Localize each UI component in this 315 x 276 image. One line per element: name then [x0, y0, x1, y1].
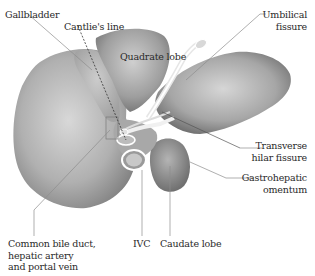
label-transverse-line1: Transverse [252, 140, 307, 152]
label-quadrate-lobe: Quadrate lobe [120, 51, 186, 63]
liver-illustration [0, 0, 315, 276]
ivc-lumen [126, 154, 142, 167]
label-gastrohepatic-line1: Gastrohepatic [242, 172, 307, 184]
label-ivc: IVC [133, 238, 150, 250]
label-common-bile-duct: Common bile duct, hepatic artery and por… [8, 238, 96, 273]
label-common-bile-line3: and portal vein [8, 261, 96, 273]
label-gastrohepatic-line2: omentum [242, 184, 307, 196]
label-caudate-lobe: Caudate lobe [160, 238, 221, 250]
label-transverse-hilar-fissure: Transverse hilar fissure [252, 140, 307, 163]
label-common-bile-line1: Common bile duct, [8, 238, 96, 250]
label-cantlies-line: Cantlie's line [64, 21, 124, 33]
label-common-bile-line2: hepatic artery [8, 250, 96, 262]
label-gallbladder: Gallbladder [5, 9, 59, 21]
label-umbilical-line2: fissure [263, 21, 307, 33]
bile-duct-vessel [120, 129, 128, 135]
label-transverse-line2: hilar fissure [252, 152, 307, 164]
label-umbilical-line1: Umbilical [263, 9, 307, 21]
ligament-end [194, 38, 208, 51]
left-lobe [155, 52, 291, 134]
label-gastrohepatic-omentum: Gastrohepatic omentum [242, 172, 307, 195]
label-umbilical-fissure: Umbilical fissure [263, 9, 307, 32]
liver-diagram: Gallbladder Cantlie's line Quadrate lobe… [0, 0, 315, 276]
